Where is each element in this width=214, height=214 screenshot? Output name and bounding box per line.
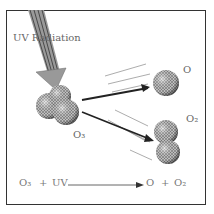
uv-arrow-icon <box>28 10 66 90</box>
equation-plus-2: + <box>161 177 169 188</box>
equation-product-o: O <box>146 177 154 188</box>
equation-reactant-ozone: O₃ <box>19 177 31 188</box>
equation-arrow-icon <box>68 182 144 188</box>
oxygen-atom-icon <box>153 70 179 96</box>
oxygen-molecule-icon <box>154 120 180 164</box>
reaction-arrows-icon <box>82 84 154 142</box>
equation-product-o2: O₂ <box>174 177 186 188</box>
oxygen-atom-label: O <box>183 64 191 75</box>
oxygen-molecule-label: O₂ <box>186 113 198 124</box>
equation-plus-1: + <box>39 177 47 188</box>
motion-lines <box>105 64 152 160</box>
ozone-label: O₃ <box>73 129 85 140</box>
ozone-molecule-icon <box>36 85 79 125</box>
uv-radiation-label: UV Radiation <box>13 32 81 43</box>
equation-reactant-uv: UV <box>52 177 68 188</box>
